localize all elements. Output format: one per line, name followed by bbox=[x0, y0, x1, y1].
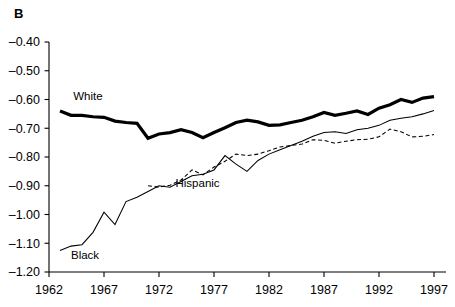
x-tick-label: 1982 bbox=[255, 283, 283, 297]
series-line-black bbox=[60, 110, 434, 250]
x-tick-label: 1992 bbox=[365, 283, 393, 297]
y-axis-tick-labels: –0.40–0.50–0.60–0.70–0.80–0.90–1.00–1.10… bbox=[9, 35, 40, 279]
figure-panel-b: B –0.40–0.50–0.60–0.70–0.80–0.90–1.00–1.… bbox=[0, 0, 455, 307]
series-label-black: Black bbox=[71, 249, 99, 261]
y-tick-label: –1.00 bbox=[9, 208, 40, 222]
y-tick-label: –0.80 bbox=[9, 150, 40, 164]
y-tick-label: –0.40 bbox=[9, 35, 40, 49]
y-tick-label: –1.10 bbox=[9, 237, 40, 251]
y-tick-label: –1.20 bbox=[9, 265, 40, 279]
x-tick-label: 1997 bbox=[420, 283, 448, 297]
x-axis-ticks bbox=[49, 272, 434, 277]
x-tick-label: 1987 bbox=[310, 283, 338, 297]
x-tick-label: 1977 bbox=[200, 283, 228, 297]
series-label-hispanic: Hispanic bbox=[176, 177, 220, 189]
line-chart: –0.40–0.50–0.60–0.70–0.80–0.90–1.00–1.10… bbox=[0, 0, 455, 307]
y-tick-label: –0.60 bbox=[9, 93, 40, 107]
y-tick-label: –0.90 bbox=[9, 179, 40, 193]
y-axis-ticks bbox=[45, 42, 50, 272]
x-tick-label: 1962 bbox=[35, 283, 63, 297]
y-tick-label: –0.50 bbox=[9, 64, 40, 78]
series-lines bbox=[60, 97, 434, 251]
x-axis-tick-labels: 19621967197219771982198719921997 bbox=[35, 283, 448, 297]
x-tick-label: 1967 bbox=[90, 283, 118, 297]
y-tick-label: –0.70 bbox=[9, 122, 40, 136]
x-tick-label: 1972 bbox=[145, 283, 173, 297]
series-line-white bbox=[60, 97, 434, 139]
series-label-white: White bbox=[73, 90, 102, 102]
